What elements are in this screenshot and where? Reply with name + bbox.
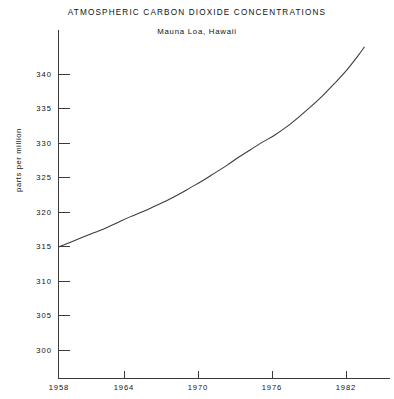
plot-area bbox=[0, 0, 394, 399]
co2-trend-line bbox=[59, 47, 365, 247]
y-tick-marks bbox=[59, 75, 70, 351]
x-tick-marks bbox=[59, 366, 347, 378]
chart-figure: ATMOSPHERIC CARBON DIOXIDE CONCENTRATION… bbox=[0, 0, 394, 399]
